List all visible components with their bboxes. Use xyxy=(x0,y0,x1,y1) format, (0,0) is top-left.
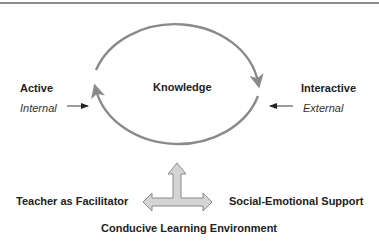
interactive-label: Interactive xyxy=(301,82,356,95)
external-label: External xyxy=(303,102,343,115)
upper-cycle-arrow xyxy=(96,24,258,82)
active-label: Active xyxy=(20,82,53,95)
lower-cycle-arrow xyxy=(96,90,258,144)
social-emotional-support-label: Social-Emotional Support xyxy=(229,195,363,208)
knowledge-label: Knowledge xyxy=(153,81,212,94)
internal-label: Internal xyxy=(20,102,57,115)
diagram-canvas xyxy=(0,0,379,248)
three-way-arrow-icon xyxy=(143,163,212,211)
teacher-as-facilitator-label: Teacher as Facilitator xyxy=(16,195,128,208)
conducive-learning-environment-label: Conducive Learning Environment xyxy=(101,222,277,235)
